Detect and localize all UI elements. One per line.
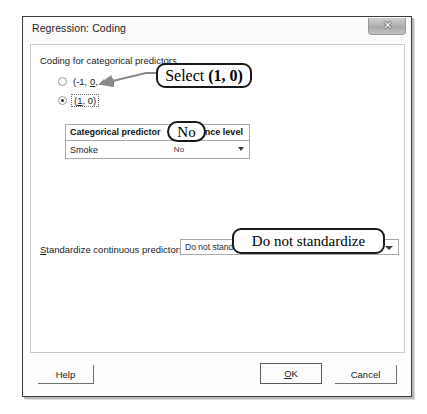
close-icon: ✕ [369, 19, 405, 32]
standardize-label-rest: tandardize continuous predictors: [46, 244, 186, 255]
ok-button[interactable]: OK [260, 363, 322, 384]
table-header-row: Categorical predictor Reference level [66, 125, 249, 141]
radio-option-1-0[interactable]: (1, 0) [58, 93, 99, 107]
dialog-title: Regression: Coding [32, 22, 126, 34]
categorical-predictor-table: Categorical predictor Reference level Sm… [65, 124, 250, 159]
dialog-titlebar: Regression: Coding ✕ [23, 17, 411, 42]
annotation-select-callout: Select (1, 0) [156, 63, 252, 88]
dialog-content-panel: Coding for categorical predictors (-1, 0… [30, 44, 405, 353]
annotation-select-text: Select [165, 67, 208, 84]
table-row[interactable]: Smoke No [66, 141, 249, 158]
radio-label-post: , +1) [95, 76, 114, 87]
annotation-no-callout: No [167, 121, 206, 142]
radio-circle-selected-icon[interactable] [58, 96, 67, 105]
annotation-standardize-callout: Do not standardize [232, 228, 385, 254]
radio-circle-icon[interactable] [58, 77, 67, 86]
coding-group-label: Coding for categorical predictors [40, 55, 177, 66]
standardize-label: Standardize continuous predictors: [40, 244, 186, 255]
ok-button-accel: O [284, 368, 291, 379]
table-header-predictor: Categorical predictor [66, 125, 169, 140]
cell-reference-level-value: No [174, 145, 184, 154]
radio-label-1-0: (1, 0) [71, 94, 99, 107]
radio-option-minus1-0-plus1[interactable]: (-1, 0, +1) [58, 74, 114, 88]
cell-reference-level-dropdown[interactable]: No [169, 141, 249, 158]
chevron-down-icon[interactable] [238, 147, 244, 151]
cell-predictor-name: Smoke [66, 145, 169, 155]
annotation-select-bold: (1, 0) [208, 67, 243, 84]
radio-label-minus1-0-plus1: (-1, 0, +1) [73, 76, 114, 87]
chevron-down-icon[interactable] [385, 246, 393, 250]
ok-button-rest: K [292, 368, 298, 379]
cancel-button[interactable]: Cancel [335, 365, 397, 384]
radio-label-pre: (-1, [73, 76, 90, 87]
radio-label-post: , 0) [82, 95, 96, 106]
help-button[interactable]: Help [38, 365, 94, 384]
close-button[interactable]: ✕ [368, 18, 406, 35]
